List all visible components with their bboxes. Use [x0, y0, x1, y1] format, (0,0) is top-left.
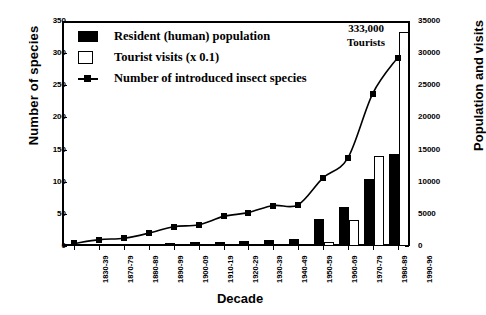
data-point-marker: [270, 203, 276, 209]
y-axis-right-tick-label: 35000: [418, 16, 440, 25]
data-point-marker: [196, 222, 202, 228]
x-axis-tick-mark: [224, 246, 225, 250]
data-point-marker: [146, 230, 152, 236]
data-point-marker: [96, 237, 102, 243]
legend-label: Resident (human) population: [114, 29, 270, 44]
x-axis-tick-label: 1970-79: [375, 256, 384, 284]
x-axis-tick-mark: [348, 246, 349, 250]
y-axis-left-title: Number of species: [26, 1, 41, 171]
x-axis-tick-mark: [174, 246, 175, 250]
annotation-line-1: 333,000: [330, 22, 402, 36]
line-with-square-marker-icon: [78, 73, 98, 84]
data-point-marker: [121, 235, 127, 241]
x-axis-tick-mark: [248, 246, 249, 250]
y-axis-right-tick-label: 10000: [418, 177, 440, 186]
x-axis-tick-label: 1900-09: [201, 256, 210, 284]
x-axis-tick-mark: [149, 246, 150, 250]
x-axis-tick-label: 1910-19: [226, 256, 235, 284]
x-axis-tick-label: 1940-49: [300, 256, 309, 284]
x-axis-tick-label: 1960-69: [350, 256, 359, 284]
x-axis-tick-label: 1880-89: [151, 256, 160, 284]
x-axis-tick-label: 1890-99: [176, 256, 185, 284]
y-axis-right-tick-label: 0: [418, 241, 422, 250]
y-axis-right-tick-label: 25000: [418, 80, 440, 89]
x-axis-tick-label: 1980-89: [400, 256, 409, 284]
y-axis-right-tick-label: 30000: [418, 48, 440, 57]
data-point-marker: [370, 91, 376, 97]
y-axis-right-tick-label: 15000: [418, 145, 440, 154]
x-axis-tick-mark: [298, 246, 299, 250]
x-axis-tick-mark: [124, 246, 125, 250]
data-point-marker: [245, 210, 251, 216]
data-point-marker: [395, 55, 401, 61]
x-axis-tick-label: 1930-39: [275, 256, 284, 284]
legend-item-introduced-insects: Number of introduced insect species: [78, 68, 307, 89]
y-axis-left-tick-mark: [63, 246, 67, 247]
data-point-marker: [295, 202, 301, 208]
y-axis-right-tick-label: 20000: [418, 112, 440, 121]
x-axis-tick-mark: [323, 246, 324, 250]
legend-item-resident-population: Resident (human) population: [78, 26, 307, 47]
legend-label: Tourist visits (x 0.1): [114, 50, 219, 65]
data-point-marker: [345, 155, 351, 161]
x-axis-tick-mark: [273, 246, 274, 250]
x-axis-tick-mark: [199, 246, 200, 250]
y-axis-right-tick-label: 5000: [418, 209, 436, 218]
y-axis-right-title: Population and visits: [471, 1, 486, 171]
open-white-square-icon: [78, 51, 93, 64]
x-axis-tick-mark: [398, 246, 399, 250]
x-axis-title: Decade: [0, 291, 480, 306]
x-axis-tick-mark: [74, 246, 75, 250]
x-axis-tick-label: 1870-79: [126, 256, 135, 284]
legend-item-tourist-visits: Tourist visits (x 0.1): [78, 47, 307, 68]
data-point-marker: [171, 224, 177, 230]
filled-black-square-icon: [78, 31, 98, 42]
x-axis-tick-label: 1990-96: [425, 256, 434, 284]
annotation-tourists: 333,000 Tourists: [330, 22, 402, 50]
annotation-line-2: Tourists: [330, 36, 402, 50]
x-axis-tick-label: 1950-59: [325, 256, 334, 284]
data-point-marker: [221, 213, 227, 219]
legend: Resident (human) population Tourist visi…: [78, 26, 307, 89]
x-axis-tick-mark: [373, 246, 374, 250]
data-point-marker: [320, 175, 326, 181]
x-axis-tick-mark: [99, 246, 100, 250]
legend-label: Number of introduced insect species: [114, 71, 307, 86]
x-axis-tick-label: 1920-29: [251, 256, 260, 284]
data-point-marker: [71, 240, 77, 246]
x-axis-tick-label: 1830-39: [101, 256, 110, 284]
y-axis-right-tick-mark: [405, 246, 409, 247]
